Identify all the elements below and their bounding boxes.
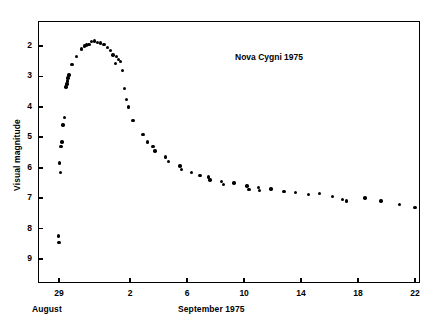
x-tick-label: 22 [401,288,429,298]
data-point [70,63,73,66]
data-point [119,60,122,63]
x-tick-label: 29 [45,288,73,298]
data-point [345,199,348,202]
data-point [190,171,193,174]
data-point [318,192,321,195]
data-point [121,69,124,72]
data-point [180,168,183,171]
y-tick-mark [38,197,43,199]
data-point [153,149,156,152]
data-point [59,171,62,174]
data-point [114,62,117,65]
data-point [341,198,344,201]
data-point [63,116,66,119]
data-point [282,190,285,193]
data-point [125,98,128,101]
x-tick-mark [129,278,131,283]
y-axis-title: Visual magnitude [12,105,22,205]
x-tick-mark [186,278,188,283]
x-tick-mark [58,278,60,283]
data-point [87,43,90,46]
data-point [59,145,62,148]
data-point [57,241,60,244]
data-point [102,43,105,46]
data-point [164,155,167,158]
data-point [66,76,69,79]
x-tick-mark [300,278,302,283]
y-tick-mark [38,76,43,78]
y-tick-label: 3 [4,70,32,80]
x-tick-label: 6 [173,288,201,298]
data-point [379,199,382,202]
y-tick-mark [38,45,43,47]
data-point [58,161,61,164]
data-point [66,79,69,82]
data-point [61,123,64,126]
data-point [198,174,201,177]
data-point [131,119,134,122]
x-tick-label: 10 [230,288,258,298]
data-point [208,178,211,181]
light-curve-figure: 23456789292610141822 Visual magnitude Se… [0,0,440,327]
data-point [222,183,225,186]
x-tick-mark [357,278,359,283]
data-point [398,203,401,206]
x-tick-mark [243,278,245,283]
x-tick-label: 2 [116,288,144,298]
y-tick-mark [38,136,43,138]
chart-annotation-label: Nova Cygni 1975 [235,52,303,62]
data-point [67,73,70,76]
data-point [331,195,334,198]
y-tick-label: 9 [4,253,32,263]
data-point [247,188,250,191]
data-point [151,145,154,148]
data-point [167,160,170,163]
y-tick-mark [38,258,43,260]
y-tick-mark [38,106,43,108]
data-point [294,191,297,194]
data-point [75,55,78,58]
data-point [258,189,261,192]
data-point [141,133,144,136]
data-point [60,140,63,143]
data-point [64,85,67,88]
data-point [65,82,68,85]
data-point [307,193,310,196]
y-tick-mark [38,167,43,169]
x-tick-mark [414,278,416,283]
y-tick-label: 8 [4,223,32,233]
data-points-layer [0,0,440,327]
data-point [363,196,366,199]
data-point [413,206,416,209]
data-point [269,187,272,190]
data-point [127,105,130,108]
x-tick-label: 18 [344,288,372,298]
data-point [109,49,112,52]
x-axis-title-previous-month: August [32,304,62,314]
data-point [146,140,149,143]
x-tick-label: 14 [287,288,315,298]
x-axis-title: September 1975 [178,304,245,314]
data-point [57,234,60,237]
data-point [232,181,235,184]
y-tick-label: 2 [4,40,32,50]
y-tick-mark [38,228,43,230]
data-point [123,87,126,90]
data-point [80,47,83,50]
